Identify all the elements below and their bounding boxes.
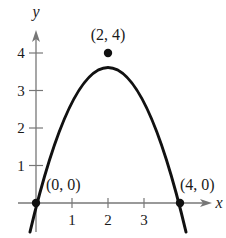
point-x-intercept: [176, 199, 184, 207]
parabola-chart: 1 2 3 1 2 3 4 x y (0, 0) (2, 4) (4, 0): [0, 0, 226, 238]
annotation-x-intercept: (4, 0): [180, 176, 215, 194]
y-axis-label: y: [30, 3, 40, 21]
point-origin: [32, 199, 40, 207]
y-tick-label: 3: [17, 83, 25, 99]
point-vertex: [104, 49, 112, 57]
y-tick-label: 1: [17, 158, 25, 174]
x-tick-label: 3: [140, 212, 148, 228]
y-tick-label: 4: [17, 45, 25, 61]
annotation-origin: (0, 0): [46, 176, 81, 194]
x-axis-label: x: [214, 194, 222, 211]
x-tick-label: 1: [68, 212, 76, 228]
x-tick-label: 2: [104, 212, 112, 228]
annotation-vertex: (2, 4): [91, 26, 126, 44]
y-tick-label: 2: [17, 120, 25, 136]
